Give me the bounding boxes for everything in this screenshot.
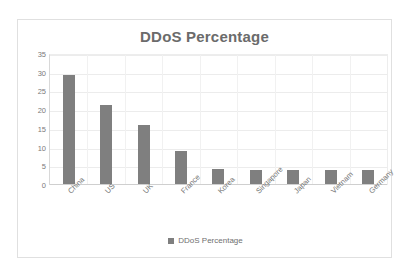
chart-title: DDoS Percentage — [18, 28, 391, 45]
y-axis-tick-label: 30 — [22, 68, 46, 77]
chart-container: DDoS Percentage 35302520151050 ChinaUSUK… — [17, 19, 392, 258]
chart-legend: DDoS Percentage — [18, 236, 393, 245]
legend-label: DDoS Percentage — [178, 236, 242, 245]
y-axis-tick-label: 35 — [22, 50, 46, 59]
y-axis-tick-label: 25 — [22, 87, 46, 96]
x-axis-label-slot: France — [162, 187, 200, 233]
y-axis-tick-label: 10 — [22, 143, 46, 152]
x-axis-label-slot: China — [49, 187, 87, 233]
bar-slot — [350, 55, 387, 185]
y-axis-tick-label: 15 — [22, 124, 46, 133]
bar[interactable] — [63, 75, 75, 185]
x-axis-labels: ChinaUSUKFranceKoreaSingaporeJapanVietna… — [49, 187, 388, 233]
y-axis: 35302520151050 — [22, 54, 46, 185]
bar[interactable] — [100, 105, 112, 185]
bar[interactable] — [175, 151, 187, 185]
y-axis-tick-label: 20 — [22, 106, 46, 115]
bar-slot — [275, 55, 312, 185]
bar-slot — [312, 55, 349, 185]
bar-slot — [125, 55, 162, 185]
bar[interactable] — [138, 125, 150, 185]
legend-color-swatch — [168, 238, 174, 244]
y-axis-tick-label: 0 — [22, 181, 46, 190]
bar-slot — [87, 55, 124, 185]
x-axis-label-slot: Vietnam — [313, 187, 351, 233]
y-axis-tick-label: 5 — [22, 162, 46, 171]
bar-series — [50, 55, 387, 185]
plot-area — [49, 54, 388, 185]
x-axis-label-slot: Germany — [350, 187, 388, 233]
bar-slot — [162, 55, 199, 185]
x-axis-label-slot: Singapore — [237, 187, 275, 233]
x-axis-label-slot: US — [87, 187, 125, 233]
x-axis-label-slot: Japan — [275, 187, 313, 233]
plot-wrapper: 35302520151050 ChinaUSUKFranceKoreaSinga… — [18, 54, 393, 259]
bar-slot — [50, 55, 87, 185]
x-axis-label-slot: Korea — [200, 187, 238, 233]
bar-slot — [200, 55, 237, 185]
x-axis-label-slot: UK — [124, 187, 162, 233]
bar-slot — [237, 55, 274, 185]
